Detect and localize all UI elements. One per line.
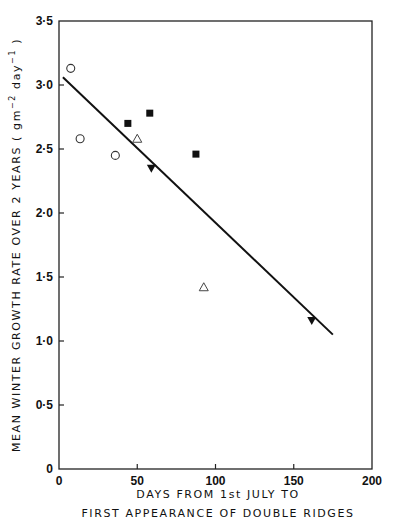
x-axis-title-line-2: FIRST APPEARANCE OF DOUBLE RIDGES [81,507,354,520]
filled-square-marker [192,151,199,158]
x-tick-label: 0 [56,474,63,488]
regression-line [63,77,333,334]
filled-inverted-triangle-marker [307,317,316,325]
scatter-chart: 00·51·01·52·02·53·03·5 050100150200 DAYS… [0,0,396,530]
x-axis-title-line-1: DAYS FROM 1st JULY TO [136,488,299,501]
y-axis-title-main: MEAN WINTER GROWTH RATE OVER 2 YEARS ( g… [10,109,23,452]
y-tick-label: 0·5 [36,398,54,412]
x-tick-label: 100 [205,474,225,488]
open-triangle-marker [133,134,142,142]
open-triangle-marker [199,283,208,291]
plot-border [59,21,372,469]
y-tick-label: 0 [46,462,53,476]
y-tick-label: 1·5 [36,270,54,284]
open-circle-marker [111,151,119,159]
y-axis-title-mid: day [10,64,23,94]
y-axis-title-end: ) [10,38,23,49]
open-circle-marker [76,135,84,143]
data-points [67,64,317,325]
filled-square-marker [124,120,131,127]
y-axis-title-sup1: −2 [8,94,17,109]
y-axis-ticks: 00·51·01·52·02·53·03·5 [36,14,64,476]
plot-frame [59,21,372,469]
y-tick-label: 2·0 [36,206,54,220]
y-tick-label: 3·0 [36,78,54,92]
x-tick-label: 150 [284,474,304,488]
x-axis-ticks: 050100150200 [56,464,383,488]
filled-square-marker [146,110,153,117]
y-tick-label: 3·5 [36,14,54,28]
y-axis-title: MEAN WINTER GROWTH RATE OVER 2 YEARS ( g… [8,38,23,452]
y-tick-label: 1·0 [36,334,54,348]
x-tick-label: 50 [131,474,145,488]
filled-inverted-triangle-marker [147,165,156,173]
fit-line [63,77,333,334]
x-tick-label: 200 [362,474,382,488]
y-axis-title-sup2: −1 [8,49,17,64]
open-circle-marker [67,64,75,72]
y-tick-label: 2·5 [36,142,54,156]
